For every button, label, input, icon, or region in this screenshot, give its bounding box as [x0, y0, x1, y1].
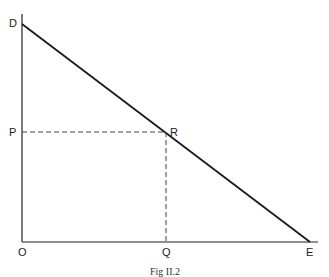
- label-E: E: [306, 247, 313, 258]
- label-O: O: [18, 247, 27, 258]
- label-Q: Q: [162, 247, 171, 258]
- figure-caption: Fig II.2: [150, 266, 180, 277]
- label-R: R: [170, 127, 178, 138]
- label-P: P: [9, 127, 16, 138]
- label-D: D: [9, 18, 17, 29]
